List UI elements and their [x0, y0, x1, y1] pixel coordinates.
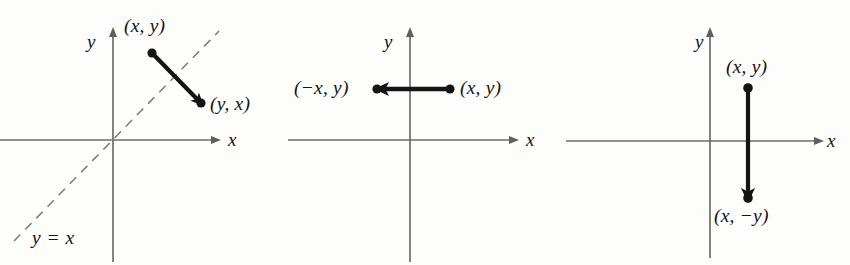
y-axis-label: y: [695, 32, 703, 51]
point-start-dot: [445, 84, 454, 93]
panel-reflection-y-axis: (−x, y) (x, y) y x: [283, 0, 566, 265]
panel-1-graphic: [0, 0, 283, 265]
mirror-line-y-equals-x: [14, 31, 219, 241]
reflection-arrow: [152, 53, 196, 98]
panel-3-graphic: [566, 0, 850, 265]
x-axis-label: x: [526, 130, 534, 149]
point-label-end: (y, x): [210, 94, 250, 114]
x-axis-label: x: [827, 131, 835, 150]
panel-2-graphic: [283, 0, 566, 265]
point-label-start: (x, y): [124, 16, 165, 36]
point-end-dot: [372, 84, 381, 93]
y-axis-label: y: [384, 32, 392, 51]
mirror-line-label: y = x: [32, 228, 75, 248]
point-start-dot: [743, 83, 753, 93]
point-end-dot: [196, 98, 205, 107]
panel-reflection-line-y-equals-x: (x, y) (y, x) y x y = x: [0, 0, 283, 265]
point-end-dot: [743, 193, 753, 203]
reflections-figure: (x, y) (y, x) y x y = x: [0, 0, 850, 265]
x-axis-label: x: [228, 130, 236, 149]
point-label-end: (−x, y): [294, 78, 349, 98]
panel-reflection-x-axis: (x, y) (x, −y) y x: [566, 0, 850, 265]
y-axis-label: y: [87, 32, 95, 51]
point-start-dot: [147, 48, 156, 57]
point-label-start: (x, y): [460, 78, 501, 98]
point-label-end: (x, −y): [714, 206, 769, 226]
point-label-start: (x, y): [726, 57, 767, 77]
